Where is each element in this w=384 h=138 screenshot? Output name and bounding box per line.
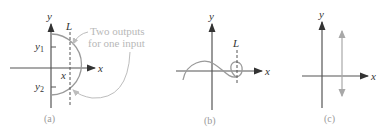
annotation-line1: Two outputs bbox=[90, 25, 145, 37]
line-L-label: L bbox=[65, 20, 72, 32]
panel-b: y x L (b) bbox=[176, 10, 270, 127]
y-axis-label: y bbox=[208, 10, 214, 22]
caption-b: (b) bbox=[204, 115, 216, 127]
x-tick-label: x bbox=[60, 69, 66, 81]
y2-label: y2 bbox=[34, 80, 44, 94]
panel-a: y x L y1 y2 x Two outputs for one input … bbox=[10, 10, 145, 125]
y-axis-label: y bbox=[318, 8, 324, 20]
x-axis-label: x bbox=[97, 62, 103, 74]
caption-a: (a) bbox=[44, 113, 55, 125]
y1-label: y1 bbox=[34, 40, 44, 54]
annotation-arrow-upper bbox=[73, 32, 88, 44]
semicircle-curve bbox=[51, 34, 81, 95]
y-axis-label: y bbox=[46, 10, 52, 22]
x-axis-label: x bbox=[370, 70, 376, 82]
line-L-label: L bbox=[232, 37, 239, 49]
caption-c: (c) bbox=[324, 113, 335, 125]
x-axis-label: x bbox=[264, 65, 270, 77]
annotation-line2: for one input bbox=[88, 37, 145, 49]
figure-canvas: y x L y1 y2 x Two outputs for one input … bbox=[0, 0, 384, 138]
panel-c: y x (c) bbox=[302, 8, 376, 125]
